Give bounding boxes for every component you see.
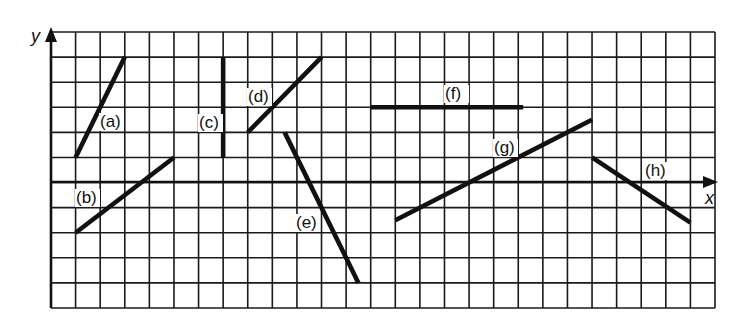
- y-axis-label: y: [29, 26, 41, 46]
- segment-label: (b): [76, 188, 97, 207]
- segment-label: (f): [445, 84, 461, 103]
- axes: y x: [29, 26, 718, 308]
- x-axis-label: x: [704, 188, 715, 208]
- y-axis-arrow-icon: [45, 27, 57, 42]
- segment-label: (a): [100, 112, 121, 131]
- segment-label: (d): [248, 87, 269, 106]
- segment-label: (e): [296, 213, 317, 232]
- segment-d: (d): [247, 57, 322, 132]
- segment-label: (h): [645, 161, 666, 180]
- segment-label: (c): [199, 113, 219, 132]
- grid: [51, 32, 715, 308]
- segment-label: (g): [494, 138, 515, 157]
- segment-f: (f): [371, 84, 523, 107]
- line-segments-diagram: y x (a)(b)(c)(d)(e)(f)(g)(h): [0, 0, 749, 327]
- segments: (a)(b)(c)(d)(e)(f)(g)(h): [75, 57, 690, 283]
